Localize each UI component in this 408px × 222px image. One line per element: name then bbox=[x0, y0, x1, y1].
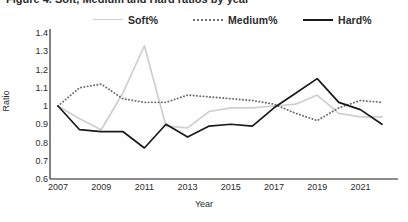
series-line-medium bbox=[58, 84, 382, 121]
series-lines bbox=[58, 46, 382, 148]
chart-figure: Figure 4. Soft, Medium and Hard ratios b… bbox=[0, 0, 408, 222]
plot-area bbox=[0, 0, 408, 222]
series-line-hard bbox=[58, 79, 382, 148]
